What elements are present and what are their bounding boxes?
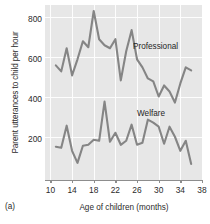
figure-panel-a: Parent utterances to child per hour 2004…	[0, 0, 210, 224]
y-tick-label-400: 400	[28, 94, 42, 104]
y-tick-label-600: 600	[28, 54, 42, 64]
x-tick-22	[115, 180, 116, 183]
x-tick-label-26: 26	[127, 185, 147, 195]
x-tick-label-14: 14	[62, 185, 82, 195]
series-lines	[45, 5, 202, 180]
plot-area: Professional Welfare	[45, 5, 202, 180]
x-tick-label-10: 10	[40, 185, 60, 195]
line-professional	[56, 11, 191, 103]
series-label-welfare: Welfare	[137, 109, 165, 118]
x-tick-26	[137, 180, 138, 183]
y-tick-label-200: 200	[28, 134, 42, 144]
x-tick-14	[72, 180, 73, 183]
x-tick-label-38: 38	[192, 185, 210, 195]
x-axis-title: Age of children (months)	[45, 203, 203, 212]
x-tick-38	[202, 180, 203, 183]
x-tick-label-18: 18	[84, 185, 104, 195]
x-tick-30	[159, 180, 160, 183]
series-label-professional: Professional	[133, 42, 178, 51]
x-tick-34	[180, 180, 181, 183]
x-tick-label-30: 30	[149, 185, 169, 195]
x-tick-10	[50, 180, 51, 183]
panel-letter: (a)	[5, 202, 15, 211]
line-welfare	[56, 102, 191, 164]
y-tick-label-group: 200400600800	[0, 0, 42, 224]
x-tick-18	[94, 180, 95, 183]
x-tick-label-22: 22	[105, 185, 125, 195]
x-axis-line	[45, 180, 203, 181]
x-tick-label-34: 34	[170, 185, 190, 195]
y-tick-label-800: 800	[28, 14, 42, 24]
